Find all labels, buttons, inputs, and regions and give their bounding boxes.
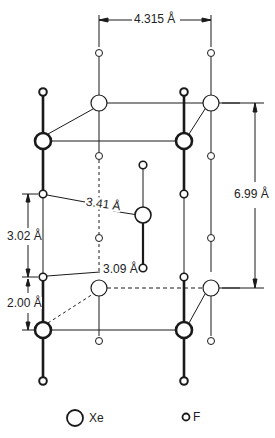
legend-shapes [67, 410, 190, 426]
legend-xe-icon [67, 410, 83, 426]
label-f-f-b: 3.09 Å [103, 263, 138, 275]
legend-f-icon [183, 414, 190, 421]
xe-atoms [35, 95, 219, 338]
label-xe-f-long: 3.02 Å [7, 230, 42, 242]
label-c: 6.99 Å [234, 188, 269, 200]
crystal-structure-diagram [0, 0, 275, 438]
legend-xe-label: Xe [89, 412, 104, 424]
label-xe-f-bond: 2.00 Å [7, 297, 42, 309]
front-columns [43, 96, 184, 377]
back-columns [99, 57, 211, 336]
label-a: 4.315 Å [134, 13, 175, 25]
legend-f-label: F [193, 411, 200, 423]
